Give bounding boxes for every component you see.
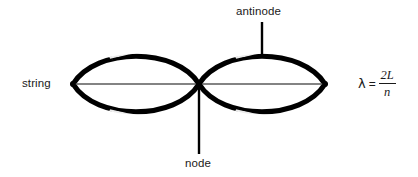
fraction: 2L n: [379, 68, 396, 100]
label-string: string: [22, 78, 51, 90]
wavelength-formula: λ = 2L n: [358, 68, 396, 100]
standing-wave-figure: string antinode node λ = 2L n: [0, 0, 418, 177]
node-left-cap: [70, 81, 76, 87]
envelope-upper-right: [199, 56, 325, 84]
equals-sign: =: [369, 78, 376, 90]
wave-diagram-canvas: [0, 0, 418, 177]
envelope-lower-right: [199, 84, 325, 112]
envelope-upper-left: [73, 56, 199, 84]
label-node: node: [185, 158, 211, 170]
fraction-bar: [379, 83, 396, 84]
fraction-numerator: 2L: [380, 68, 395, 82]
lambda-symbol: λ: [358, 77, 366, 90]
node-right-cap: [322, 81, 328, 87]
label-antinode: antinode: [236, 6, 281, 18]
fraction-denominator: n: [383, 85, 391, 99]
envelope-lower-left: [73, 84, 199, 112]
